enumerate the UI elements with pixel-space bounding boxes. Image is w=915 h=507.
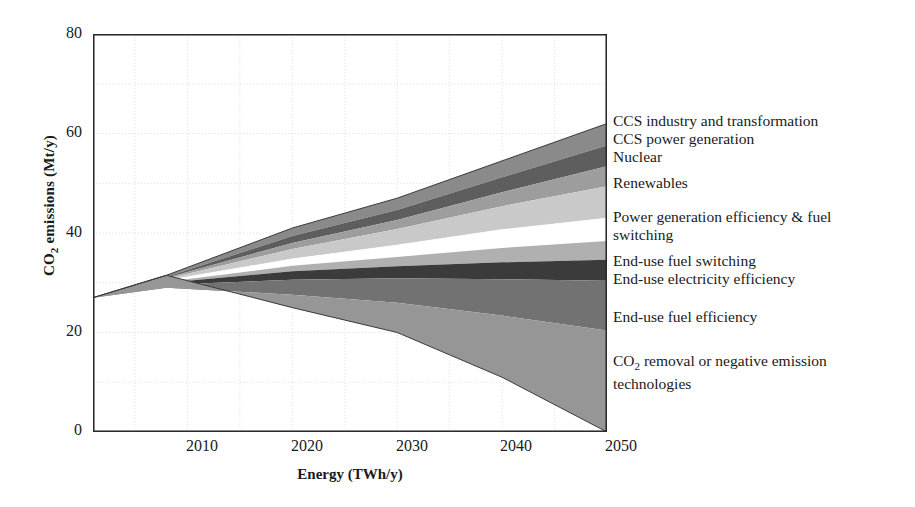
y-axis-title-subscript: 2 bbox=[48, 247, 60, 253]
legend-item-label-prefix: CO bbox=[613, 352, 635, 369]
legend-item-7: End-use fuel efficiency bbox=[613, 308, 757, 326]
x-tick-label-2020: 2020 bbox=[272, 437, 342, 455]
y-axis-title-prefix: CO bbox=[41, 253, 57, 276]
legend-item-4: Power generation efficiency & fuel switc… bbox=[613, 208, 831, 244]
legend-item-0: CCS industry and transformation bbox=[613, 112, 818, 130]
legend-item-1: CCS power generation bbox=[613, 130, 754, 148]
y-axis-title: CO2 emissions (Mt/y) bbox=[41, 6, 60, 406]
wedge-bands bbox=[93, 124, 607, 432]
plot-area bbox=[93, 34, 607, 432]
legend-item-3: Renewables bbox=[613, 174, 688, 192]
x-tick-label-2050: 2050 bbox=[586, 437, 656, 455]
legend-item-8: CO2 removal or negative emission technol… bbox=[613, 352, 827, 393]
x-tick-label-2010: 2010 bbox=[167, 437, 237, 455]
y-tick-label-20: 20 bbox=[32, 322, 82, 340]
y-tick-label-0: 0 bbox=[32, 421, 82, 439]
y-tick-label-40: 40 bbox=[32, 223, 82, 241]
legend-item-5: End-use fuel switching bbox=[613, 252, 756, 270]
wedge-area-chart bbox=[93, 34, 607, 432]
legend-item-2: Nuclear bbox=[613, 148, 662, 166]
y-tick-label-80: 80 bbox=[32, 24, 82, 42]
x-axis-title: Energy (TWh/y) bbox=[93, 466, 607, 483]
x-tick-label-2040: 2040 bbox=[481, 437, 551, 455]
legend-item-label-suffix: removal or negative emission technologie… bbox=[613, 352, 827, 392]
chart-figure: CO2 emissions (Mt/y) Energy (TWh/y) 80 6… bbox=[0, 0, 915, 507]
y-tick-label-60: 60 bbox=[32, 123, 82, 141]
legend-item-6: End-use electricity efficiency bbox=[613, 270, 795, 288]
x-tick-label-2030: 2030 bbox=[377, 437, 447, 455]
